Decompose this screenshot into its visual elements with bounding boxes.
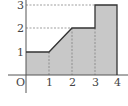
origin-label: O [16,76,25,89]
x-tick-2: 2 [69,76,76,89]
shaded-area [26,5,117,75]
x-tick-1: 1 [46,76,53,89]
y-tick-3: 3 [17,0,24,12]
x-tick-4: 4 [114,76,121,89]
function-graph: O 1 2 3 4 1 2 3 [0,0,128,106]
x-tick-3: 3 [92,76,99,89]
y-tick-2: 2 [17,22,24,35]
y-tick-1: 1 [17,46,24,59]
